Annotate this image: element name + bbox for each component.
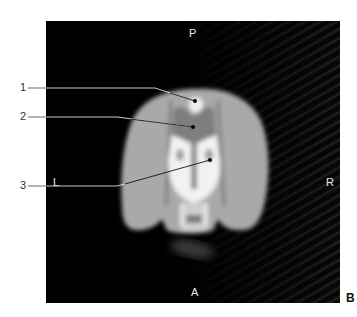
ct-scan-figure: P A L R 1 2 3 B — [0, 0, 357, 317]
ct-scan-graphic — [46, 21, 340, 303]
orientation-label-right: R — [326, 177, 334, 188]
callout-number-1: 1 — [20, 82, 26, 93]
ct-scan-image: P A L R — [46, 21, 340, 303]
orientation-label-anterior: A — [191, 287, 198, 298]
orientation-label-left: L — [53, 177, 59, 188]
orientation-label-posterior: P — [189, 28, 196, 39]
callout-number-3: 3 — [20, 180, 26, 191]
panel-label: B — [346, 292, 355, 304]
callout-number-2: 2 — [20, 111, 26, 122]
